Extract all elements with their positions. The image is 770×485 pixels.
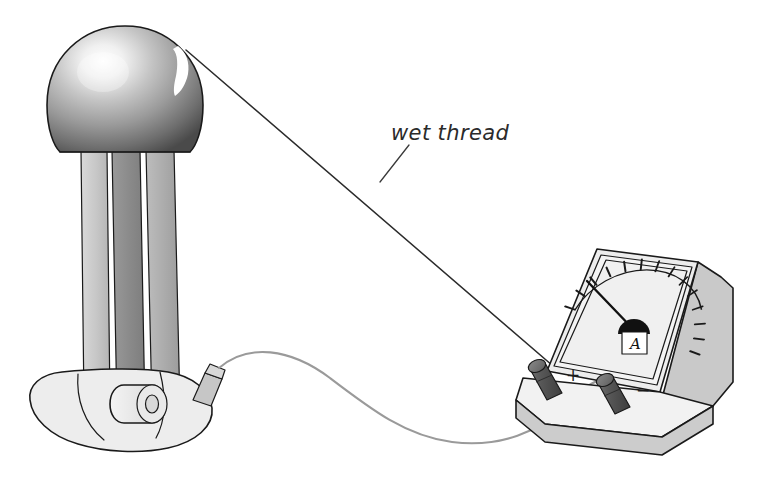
dome-bloom xyxy=(77,52,129,92)
terminal-positive-label: + xyxy=(566,365,580,385)
generator-dome xyxy=(47,26,203,152)
physics-diagram: wet thread xyxy=(0,0,770,485)
wet-thread xyxy=(186,50,560,372)
figure-root: wet thread xyxy=(0,0,770,485)
terminal-negative-label: − xyxy=(636,380,650,400)
generator-column-left xyxy=(81,150,110,404)
wet-thread-annotation: wet thread xyxy=(380,121,510,182)
generator-drive-roller xyxy=(110,385,167,423)
ammeter-unit-label: A xyxy=(628,335,641,353)
roller-hub xyxy=(146,395,159,413)
wet-thread-leader-line xyxy=(380,145,409,182)
wet-thread-label: wet thread xyxy=(391,121,510,145)
ammeter: A + − xyxy=(516,249,733,455)
